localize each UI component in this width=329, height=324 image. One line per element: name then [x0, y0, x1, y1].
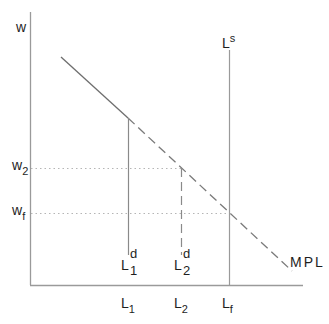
w2-tick-label: w2	[12, 158, 28, 172]
w2-base: w	[12, 157, 22, 173]
labor-demand-1-label: L d 1	[121, 258, 129, 272]
labor-supply-label: Ls	[222, 36, 235, 50]
labor-demand-2-label: L d 2	[174, 258, 182, 272]
labor-supply-base: L	[222, 35, 230, 51]
labor-demand-2-base: L	[174, 257, 182, 273]
l1-subscript: 1	[129, 303, 135, 315]
l2-subscript: 2	[182, 303, 188, 315]
lf-base: L	[222, 295, 230, 311]
l1-base: L	[121, 295, 129, 311]
w2-subscript: 2	[22, 165, 28, 177]
labor-demand-1-subscript: 1	[130, 264, 137, 277]
lf-tick-label: Lf	[222, 296, 233, 310]
labor-demand-2-superscript: d	[183, 247, 190, 260]
wf-tick-label: wf	[12, 203, 25, 217]
mpl-label: MPL	[290, 255, 325, 269]
mpl-label-text: MPL	[290, 254, 325, 270]
y-axis-label-text: w	[16, 19, 26, 35]
mpl-dashed-segment	[128, 118, 292, 271]
y-axis-label: w	[16, 20, 26, 34]
labor-demand-1-superscript: d	[130, 247, 137, 260]
l1-tick-label: L1	[121, 296, 135, 310]
labor-demand-2-subscript: 2	[183, 264, 190, 277]
labor-market-diagram	[0, 0, 329, 324]
lf-subscript: f	[230, 303, 233, 315]
wf-base: w	[12, 202, 22, 218]
mpl-solid-segment	[61, 57, 128, 118]
labor-supply-superscript: s	[230, 32, 236, 44]
l2-tick-label: L2	[174, 296, 188, 310]
l2-base: L	[174, 295, 182, 311]
labor-demand-1-base: L	[121, 257, 129, 273]
wf-subscript: f	[22, 210, 25, 222]
